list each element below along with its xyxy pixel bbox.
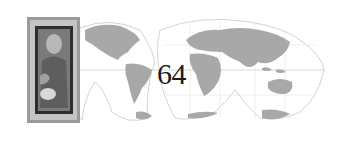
framed-painting-icon [26,16,81,124]
page-number: 64 [157,57,186,91]
